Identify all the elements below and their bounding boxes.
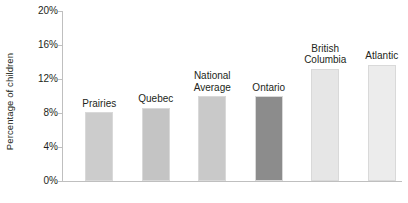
bar-category-label-line: Prairies [82, 98, 116, 110]
bar-category-label-line: Columbia [304, 54, 346, 66]
y-axis-tick-label: 20% [12, 6, 58, 16]
y-axis-tick-mark [58, 113, 62, 114]
bar-category-label: Quebec [138, 93, 173, 105]
bar-category-label-line: Atlantic [365, 50, 398, 62]
bar-category-label-line: National [194, 70, 231, 82]
bar-group: BritishColumbia [311, 11, 339, 181]
bar[interactable] [368, 65, 396, 181]
y-axis-tick-label: 12% [12, 74, 58, 84]
bar-group: Quebec [142, 11, 170, 181]
bar-group: Ontario [255, 11, 283, 181]
bar[interactable] [85, 112, 113, 181]
x-axis-line [62, 181, 402, 182]
bar-group: Atlantic [368, 11, 396, 181]
bar[interactable] [255, 96, 283, 181]
bar-chart: Percentage of children 20%16%12%8%4%0% P… [0, 0, 408, 203]
y-axis-tick-label: 4% [12, 142, 58, 152]
bar-category-label: Atlantic [365, 50, 398, 62]
bar[interactable] [198, 96, 226, 181]
bar-category-label: Ontario [252, 82, 285, 94]
bar-group: NationalAverage [198, 11, 226, 181]
y-axis-tick-label: 8% [12, 108, 58, 118]
bar-category-label-line: Ontario [252, 82, 285, 94]
y-axis-tick-mark [58, 79, 62, 80]
plot-area: PrairiesQuebecNationalAverageOntarioBrit… [63, 11, 402, 181]
y-axis-tick-labels: 20%16%12%8%4%0% [12, 0, 58, 203]
y-axis-tick-mark [58, 45, 62, 46]
bar-category-label-line: Average [194, 82, 231, 94]
bar[interactable] [142, 108, 170, 181]
bar-category-label: BritishColumbia [304, 43, 346, 66]
y-axis-tick-mark [58, 147, 62, 148]
y-axis-tick-label: 16% [12, 40, 58, 50]
bar-category-label-line: Quebec [138, 93, 173, 105]
y-axis-tick-mark [58, 11, 62, 12]
bar-category-label: NationalAverage [194, 70, 231, 93]
bar-group: Prairies [85, 11, 113, 181]
y-axis-tick-mark [58, 181, 62, 182]
bar-category-label: Prairies [82, 98, 116, 110]
bar[interactable] [311, 69, 339, 181]
bar-category-label-line: British [304, 43, 346, 55]
y-axis-tick-label: 0% [12, 176, 58, 186]
